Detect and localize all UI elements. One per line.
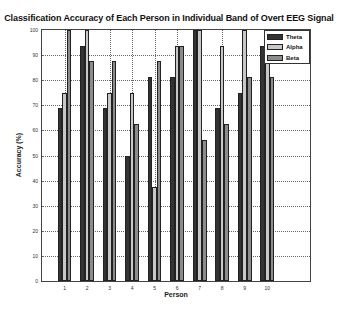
bar-beta-person-6	[179, 46, 184, 281]
y-tick-label: 90	[32, 52, 38, 58]
legend-item-alpha: Alpha	[267, 43, 303, 52]
bar-beta-person-2	[89, 61, 94, 281]
bar-beta-person-3	[112, 61, 117, 281]
bar-beta-person-5	[157, 61, 162, 281]
y-tick-label: 50	[32, 153, 38, 159]
legend: Theta Alpha Beta	[264, 30, 310, 64]
y-tick-label: 20	[32, 228, 38, 234]
y-tick-label: 80	[32, 77, 38, 83]
legend-swatch-theta	[267, 34, 283, 40]
bar-beta-person-7	[202, 140, 207, 281]
y-tick-label: 30	[32, 203, 38, 209]
bar-beta-person-10	[270, 77, 275, 281]
bar-beta-person-9	[247, 77, 252, 281]
legend-label: Beta	[286, 55, 299, 61]
y-tick-label: 0	[35, 278, 38, 284]
y-tick-label: 100	[30, 27, 38, 33]
legend-item-theta: Theta	[267, 32, 302, 41]
plot-area	[41, 29, 311, 282]
legend-label: Theta	[286, 34, 302, 40]
y-tick-label: 10	[32, 253, 38, 259]
y-axis-label: Accuracy (%)	[15, 125, 22, 185]
x-axis-label: Person	[41, 291, 311, 298]
bar-beta-person-8	[224, 124, 229, 281]
chart-title: Classification Accuracy of Each Person i…	[0, 13, 338, 23]
legend-swatch-alpha	[267, 44, 283, 50]
y-tick-label: 60	[32, 127, 38, 133]
y-tick-label: 40	[32, 178, 38, 184]
bar-beta-person-1	[67, 30, 72, 281]
legend-swatch-beta	[267, 55, 283, 61]
bar-beta-person-4	[134, 124, 139, 281]
legend-item-beta: Beta	[267, 53, 299, 62]
legend-label: Alpha	[286, 44, 303, 50]
y-tick-label: 70	[32, 102, 38, 108]
